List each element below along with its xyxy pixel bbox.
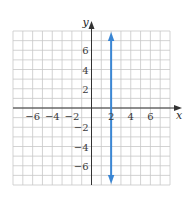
y-tick-label: 4 (82, 65, 88, 76)
y-tick-label: −2 (74, 122, 89, 133)
y-axis-label: y (82, 16, 90, 29)
y-axis-arrow-icon (89, 21, 95, 29)
x-tick-label: 6 (147, 111, 153, 122)
x-tick-label: 2 (108, 111, 114, 122)
y-tick-label: −4 (74, 142, 89, 153)
x-axis-label: x (176, 109, 183, 122)
y-tick-label: −6 (74, 161, 89, 172)
arrow-down-icon (108, 175, 114, 184)
x-tick-label: 4 (128, 111, 134, 122)
axes (13, 21, 182, 185)
y-tick-label: 2 (82, 84, 88, 95)
x-tick-label: −6 (25, 111, 40, 122)
y-tick-label: 6 (82, 45, 88, 56)
arrow-up-icon (108, 32, 114, 41)
x-tick-label: −4 (45, 111, 60, 122)
coordinate-plane: −6−4−2246642−2−4−6 x y (0, 0, 185, 206)
x-tick-label: −2 (65, 111, 80, 122)
